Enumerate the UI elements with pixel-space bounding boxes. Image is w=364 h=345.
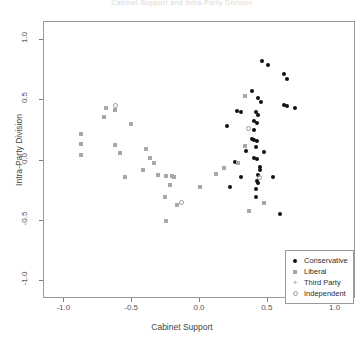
data-point-conservative [256, 181, 260, 185]
x-tick [131, 298, 132, 302]
data-point-conservative [266, 63, 270, 67]
data-point-conservative [258, 168, 262, 172]
data-point-liberal [168, 183, 172, 187]
data-point-liberal [102, 115, 106, 119]
data-point-conservative [252, 128, 256, 132]
x-tick-label: 0.5 [247, 303, 287, 312]
legend-label: Liberal [304, 267, 327, 276]
data-point-liberal [236, 161, 240, 165]
data-point-conservative [254, 187, 258, 191]
legend-label: Conservative [304, 256, 348, 265]
data-point-liberal [113, 108, 117, 112]
legend-marker-filled-square [290, 267, 300, 277]
x-tick-label: 0.0 [179, 303, 219, 312]
legend-row: Liberal [290, 266, 348, 277]
x-tick [267, 298, 268, 302]
data-point-conservative [225, 124, 229, 128]
legend-row: +Third Party [290, 277, 348, 288]
data-point-conservative [244, 149, 248, 153]
chart-title: Cabinet Support and Intra-Party Division [0, 0, 364, 8]
data-point-conservative [260, 59, 264, 63]
data-point-liberal [104, 106, 108, 110]
data-point-liberal [148, 156, 152, 160]
data-point-conservative [228, 185, 232, 189]
legend-marker-glyph [293, 259, 297, 263]
data-point-conservative [239, 110, 243, 114]
data-point-liberal [118, 151, 122, 155]
data-point-conservative [285, 104, 289, 108]
data-point-conservative [278, 212, 282, 216]
x-axis-label: Cabinet Support [0, 322, 364, 332]
legend-marker-plus: + [290, 278, 300, 288]
legend-marker-glyph: + [292, 279, 299, 286]
legend-row: Conservative [290, 255, 348, 266]
data-point-liberal [79, 132, 83, 136]
y-tick-label: -1.0 [14, 274, 36, 283]
data-point-liberal [113, 143, 117, 147]
data-point-liberal [262, 201, 266, 205]
data-point-liberal [79, 142, 83, 146]
data-point-liberal [164, 174, 168, 178]
scatter-plot-figure: Cabinet Support and Intra-Party Division… [0, 0, 364, 345]
data-point-conservative [285, 77, 289, 81]
y-tick-label: -0.5 [14, 214, 36, 223]
data-point-liberal [79, 153, 83, 157]
data-point-conservative [254, 145, 258, 149]
data-point-liberal [156, 173, 160, 177]
data-point-conservative [254, 195, 258, 199]
data-point-liberal [123, 175, 127, 179]
data-point-liberal [247, 209, 251, 213]
data-point-liberal [243, 94, 247, 98]
data-point-independent [113, 103, 118, 108]
x-tick [199, 298, 200, 302]
data-point-conservative [256, 113, 260, 117]
y-tick-label: 0.0 [14, 154, 36, 163]
legend-marker-glyph [293, 291, 298, 296]
data-point-conservative [255, 139, 259, 143]
y-tick-label: 1.0 [14, 33, 36, 42]
data-point-liberal [172, 175, 176, 179]
data-point-conservative [255, 121, 259, 125]
data-point-conservative [250, 89, 254, 93]
legend-marker-filled-circle [290, 256, 300, 266]
data-point-conservative [255, 157, 259, 161]
data-point-liberal [163, 195, 167, 199]
data-point-conservative [271, 175, 275, 179]
data-point-liberal [129, 122, 133, 126]
y-axis-label: Intra-Party Division [14, 90, 24, 210]
legend-row: Independent [290, 288, 348, 299]
data-point-conservative [235, 109, 239, 113]
data-point-conservative [282, 72, 286, 76]
x-tick-label: -1.0 [43, 303, 83, 312]
data-point-independent [257, 175, 262, 180]
data-point-liberal [164, 219, 168, 223]
data-point-liberal [152, 161, 156, 165]
legend-marker-glyph [293, 270, 297, 274]
data-point-independent [246, 126, 251, 131]
legend-label: Third Party [304, 278, 341, 287]
data-point-independent [179, 200, 184, 205]
legend: ConservativeLiberal+Third PartyIndepende… [285, 250, 354, 304]
data-point-liberal [198, 185, 202, 189]
data-point-conservative [293, 106, 297, 110]
data-point-liberal [141, 168, 145, 172]
data-point-liberal [243, 144, 247, 148]
data-point-liberal [214, 172, 218, 176]
data-point-conservative [262, 150, 266, 154]
data-point-conservative [259, 100, 263, 104]
data-point-liberal [222, 166, 226, 170]
data-point-liberal [175, 203, 179, 207]
legend-label: Independent [304, 289, 346, 298]
data-point-conservative [239, 175, 243, 179]
x-tick [63, 298, 64, 302]
x-tick-label: 1.0 [315, 303, 355, 312]
data-point-liberal [144, 147, 148, 151]
y-tick-label: 0.5 [14, 93, 36, 102]
legend-marker-open-circle [290, 289, 300, 299]
x-tick-label: -0.5 [111, 303, 151, 312]
